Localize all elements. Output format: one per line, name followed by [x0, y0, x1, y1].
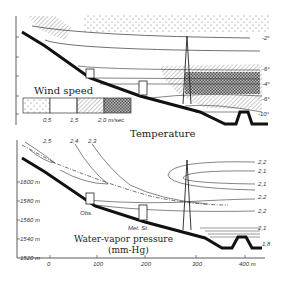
legend-tick: 0,5	[43, 117, 52, 123]
diagram-canvas: -2° -6° -4° -6° -10° Wind speed 0,5 1,5 …	[0, 0, 288, 288]
svg-text:1560 m: 1560 m	[20, 217, 40, 223]
temperature-panel: -2° -6° -4° -6° -10° Wind speed 0,5 1,5 …	[16, 15, 270, 139]
panel-title-temperature: Temperature	[130, 128, 196, 139]
isoline-label: 2,4	[69, 138, 79, 144]
svg-text:300: 300	[192, 261, 203, 267]
y-axis-labels: 1600 m 1580 m 1560 m 1540 m 1520 m	[17, 179, 40, 261]
isotherm-label: -10°	[258, 111, 270, 117]
isotherm-label: -6°	[262, 96, 270, 102]
isoline-label: 2,1	[257, 168, 266, 174]
svg-text:400 m: 400 m	[239, 261, 256, 267]
hatched-region-top-left	[28, 16, 72, 40]
svg-text:200: 200	[140, 261, 152, 267]
svg-text:1600 m: 1600 m	[20, 179, 40, 185]
site-label-met-station: Met. St.	[128, 225, 149, 231]
low-wind-region	[84, 15, 269, 32]
svg-text:0: 0	[47, 261, 51, 267]
water-vapor-panel: 2,5 2,4 2,3 Obs. Met. St. 2,2 2,1 2,1 2,…	[17, 138, 271, 267]
isotherm-label: -6°	[262, 66, 270, 72]
legend-title: Wind speed	[34, 85, 94, 96]
met-station-structure	[139, 81, 147, 95]
cross-hatched-region	[185, 72, 260, 94]
panel-title-water-vapor: Water-vapor pressure	[74, 234, 173, 244]
wind-speed-legend	[23, 98, 131, 113]
isoline-label: 1,8	[262, 241, 271, 247]
isotherm-label: -2°	[262, 35, 270, 41]
x-axis-labels: 0 100 200 300 400 m	[47, 255, 256, 267]
isotherm-label: -4°	[262, 81, 270, 87]
isoline-label: 2,2	[257, 159, 267, 165]
isoline-label: 2,1	[257, 225, 266, 231]
site-label-observatory: Obs.	[80, 210, 93, 216]
svg-text:100: 100	[93, 261, 104, 267]
isoline-label: 2,5	[42, 138, 52, 144]
mast-structure	[183, 160, 191, 230]
met-station-structure	[139, 205, 147, 220]
isoline-label: 2,2	[257, 194, 267, 200]
observatory-structure	[86, 193, 94, 204]
legend-tick: 1,5	[70, 117, 79, 123]
isoline-label: 2,2	[257, 208, 267, 214]
svg-text:1580 m: 1580 m	[20, 198, 40, 204]
legend-tick: 2,0 m/sec.	[97, 117, 126, 123]
svg-text:1520 m: 1520 m	[20, 255, 40, 261]
observatory-structure	[86, 69, 94, 78]
svg-text:1540 m: 1540 m	[20, 236, 40, 242]
isoline-label: 2,1	[257, 181, 266, 187]
isoline-label: 2,3	[87, 138, 97, 144]
panel-subtitle-units: (mm-Hg)	[108, 245, 149, 255]
